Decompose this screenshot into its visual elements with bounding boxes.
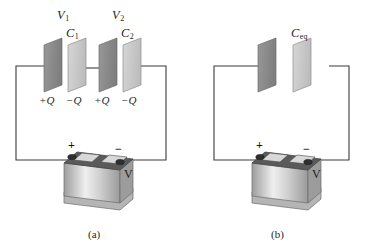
battery-a-terminal-negative (116, 159, 124, 164)
circuit-wires-a (16, 66, 166, 160)
panel-b: Ceq + − V (b) (183, 0, 366, 251)
capacitor-c1 (44, 38, 86, 92)
c1-charge-positive-label: +Q (39, 95, 54, 106)
battery-a-negative-sign: − (115, 143, 122, 155)
capacitor-c1-name-label: C1 (66, 27, 78, 40)
capacitor-c2 (99, 38, 141, 92)
battery-b (252, 152, 321, 210)
battery-a-positive-sign: + (68, 139, 75, 151)
battery-a-voltage-label: V (124, 168, 133, 180)
c1-plate-right (68, 38, 86, 92)
battery-b-negative-sign: − (303, 143, 310, 155)
c2-plate-right (123, 38, 141, 92)
battery-a-terminal-positive (68, 154, 76, 159)
battery-b-terminal-negative (304, 159, 312, 164)
c2-charge-negative-label: −Q (121, 95, 136, 106)
capacitor-c2-name-label: C2 (121, 27, 133, 40)
panel-a: V1 C1 V2 C2 +Q −Q +Q −Q + − V (a) (0, 0, 183, 251)
c2-charge-positive-label: +Q (94, 95, 109, 106)
ceq-plate-left (258, 38, 276, 92)
capacitors-in-series-figure: V1 C1 V2 C2 +Q −Q +Q −Q + − V (a) (0, 0, 366, 251)
battery-a (64, 152, 133, 210)
circuit-wires-b (214, 66, 349, 160)
panel-a-artwork (0, 0, 183, 251)
capacitor-c2-voltage-label: V2 (112, 9, 124, 22)
c1-charge-negative-label: −Q (66, 95, 81, 106)
capacitor-c1-voltage-label: V1 (57, 9, 69, 22)
battery-b-positive-sign: + (256, 139, 263, 151)
panel-b-artwork (183, 0, 366, 251)
panel-a-caption: (a) (88, 228, 100, 240)
c1-plate-left (44, 38, 62, 92)
capacitor-ceq-name-label: Ceq (291, 27, 307, 40)
panel-b-caption: (b) (271, 228, 284, 240)
ceq-plate-right (293, 38, 311, 92)
capacitor-ceq (258, 38, 311, 92)
c2-plate-left (99, 38, 117, 92)
battery-b-voltage-label: V (312, 168, 321, 180)
battery-b-terminal-positive (256, 154, 264, 159)
